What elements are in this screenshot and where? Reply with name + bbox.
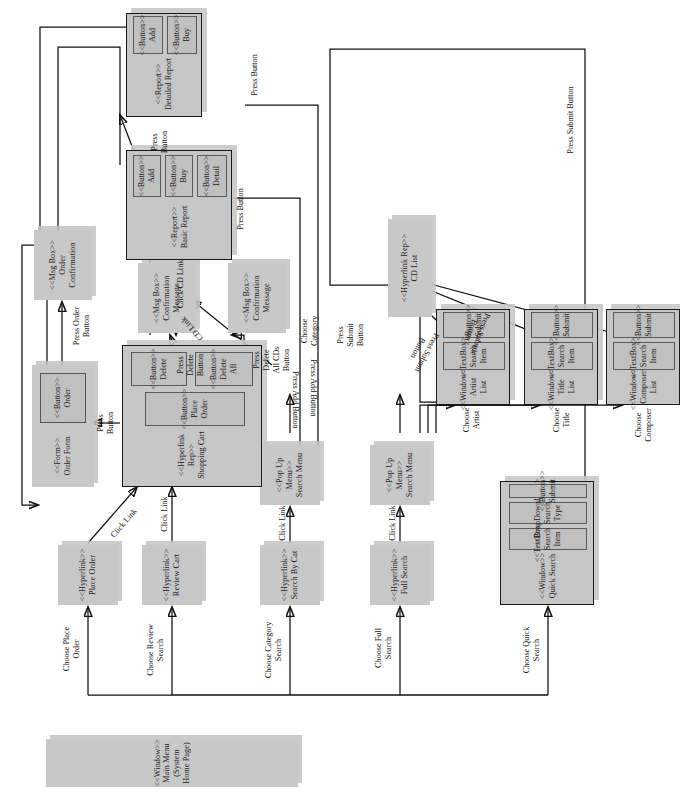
edge-label-press-button-right-2: Press Button — [250, 35, 260, 115]
node-hyperlink-place-order-stereotype: <<Hyperlink>> — [78, 549, 88, 602]
node-detailed-report-stereotype: <<Report>> — [154, 64, 164, 105]
node-msgbox-confirmation-message-2: <<Msg Box>> Confirmation Message — [228, 263, 286, 333]
textbox-title-search-item-label: Search Item — [557, 343, 576, 369]
button-order-label: Order — [63, 388, 73, 407]
node-basic-report-title: <<Report>> Basic Report — [135, 199, 225, 255]
edge-label-press-submit-button-1: Press Submit Button — [336, 313, 366, 357]
button-title-submit[interactable]: <<Button>> Submit — [531, 312, 593, 338]
edge-label-choose-title: Choose Title — [552, 399, 572, 441]
node-quick-search-label: Quick Search — [548, 554, 558, 598]
button-cart-delete-all-stereotype: <<Button>> — [209, 349, 219, 390]
edge-label-press-delete-all-cds-button: Press Delete All CDs Button — [252, 333, 291, 387]
edge-label-choose-artist: Choose Artist — [462, 397, 482, 443]
node-msgbox-order-confirmation-line2: Confirmation — [68, 242, 78, 287]
node-hyperlink-place-order[interactable]: <<Hyperlink>> Place Order — [58, 545, 118, 605]
node-popup-search-menu-full[interactable]: <<Pop Up Menu>> Search Menu — [370, 445, 430, 505]
node-cd-list[interactable]: <<Hyperlink Rep>> CD List — [388, 219, 432, 317]
node-popup-search-menu-full-stereotype: <<Pop Up Menu>> — [385, 445, 404, 505]
button-basic-add-stereotype: <<Button>> — [137, 156, 147, 197]
node-detailed-report-title: <<Report>> Detailed Report — [133, 56, 195, 112]
node-basic-report[interactable]: <<Report>> Basic Report <<Button>> Add <… — [126, 150, 232, 260]
node-main-menu[interactable]: <<Window>> Main Menu (System Home Page) — [46, 739, 298, 787]
edge-label-press-button-cart-to-form: Press Button — [96, 393, 116, 453]
node-popup-search-menu-category-label: Search Menu — [295, 453, 305, 498]
button-detailed-buy-stereotype: <<Button>> — [172, 15, 182, 56]
node-detailed-report[interactable]: <<Report>> Detailed Report <<Button>> Ad… — [126, 13, 202, 117]
edge-label-click-link-3: Click Link — [388, 503, 398, 543]
node-title-list[interactable]: <<Window>> Title List <<TextBox>> Search… — [524, 309, 598, 405]
button-detailed-add-label: Add — [148, 28, 158, 42]
button-basic-buy-stereotype: <<Button>> — [169, 156, 179, 197]
edge-label-press-submit-button-4: Press Submit Button — [566, 55, 576, 185]
node-order-form[interactable]: <<Form>> Order Form <<Button>> Order — [32, 365, 94, 487]
dropdown-quick-search-type[interactable]: <<DropDownList>> Search Type — [509, 502, 587, 524]
button-title-submit-stereotype: <<Button>> — [552, 305, 562, 346]
node-main-menu-stereotype: <<Window>> — [153, 739, 163, 786]
node-hyperlink-full-search[interactable]: <<Hyperlink>> Full Search — [370, 545, 430, 605]
node-shopping-cart-stereotype: <<Hyperlink Rep>> — [177, 430, 196, 480]
button-order-stereotype: <<Button>> — [53, 378, 63, 419]
node-main-menu-line1: Main Menu — [162, 743, 172, 782]
button-composer-submit-label: Submit — [644, 313, 654, 337]
node-quick-search[interactable]: <<Window>> Quick Search <<TextBox>> Sear… — [500, 481, 594, 605]
node-msgbox-order-confirmation-line1: Order — [58, 255, 68, 275]
node-cd-list-stereotype: <<Hyperlink Rep>> — [400, 234, 410, 303]
textbox-quick-search-item[interactable]: <<TextBox>> Search Item — [509, 528, 587, 550]
node-basic-report-stereotype: <<Report>> — [170, 207, 180, 248]
button-basic-buy-label: Buy — [179, 169, 189, 183]
node-cd-list-label: CD List — [410, 255, 420, 282]
node-hyperlink-search-by-cat-stereotype: <<Hyperlink>> — [280, 549, 290, 602]
node-hyperlink-review-cart-stereotype: <<Hyperlink>> — [162, 549, 172, 602]
button-quick-submit[interactable]: <<Button>> Submit — [509, 484, 587, 498]
node-popup-search-menu-full-label: Search Menu — [405, 453, 415, 498]
node-composer-list[interactable]: <<Window>> Composer List <<TextBox>> Sea… — [606, 309, 680, 405]
button-basic-detail[interactable]: <<Button>> Detail — [197, 155, 227, 197]
button-composer-submit-stereotype: <<Button>> — [634, 305, 644, 346]
node-hyperlink-full-search-stereotype: <<Hyperlink>> — [390, 549, 400, 602]
textbox-title-search-item[interactable]: <<TextBox>> Search Item — [531, 342, 593, 370]
edge-label-press-delete-button: Press Delete Button — [176, 339, 206, 391]
button-cart-place-order-stereotype: <<Button>> — [180, 389, 190, 430]
edge-label-choose-composer: Choose Composer — [634, 397, 654, 453]
node-hyperlink-review-cart-label: Review Cart — [172, 554, 182, 596]
edge-label-press-order-button: Press Order Button — [72, 291, 92, 361]
edge-label-click-link-2: Click Link — [278, 503, 288, 543]
node-order-form-stereotype: <<Form>> — [53, 438, 63, 474]
node-msgbox-confirmation-message-2-stereotype: <<Msg Box>> — [242, 273, 252, 323]
edge-label-click-link-1: Click Link — [160, 485, 170, 543]
node-hyperlink-search-by-cat[interactable]: <<Hyperlink>> Search By Cat — [260, 545, 320, 605]
node-hyperlink-search-by-cat-label: Search By Cat — [290, 551, 300, 600]
edge-label-choose-full-search: Choose Full Search — [374, 609, 394, 687]
edge-label-choose-category-search: Choose Category Search — [264, 605, 284, 695]
button-cart-delete-stereotype: <<Button>> — [149, 349, 159, 390]
edge-label-choose-place-order: Choose Place Order — [62, 609, 82, 689]
button-cart-place-order-label: Place Order — [190, 393, 209, 425]
edge-label-choose-quick-search: Choose Quick Search — [522, 607, 542, 693]
button-order[interactable]: <<Button>> Order — [40, 373, 86, 423]
edge-label-press-button-detail: Press Button — [150, 119, 170, 165]
edge-label-choose-category: Choose Category — [300, 303, 320, 359]
node-shopping-cart-label: Shopping Cart — [197, 431, 207, 479]
button-basic-detail-stereotype: <<Button>> — [202, 156, 212, 197]
node-title-list-title: <<Window>> Title List — [531, 374, 593, 400]
node-main-menu-line2: (System Home Page) — [172, 739, 191, 787]
button-cart-delete-all-label: Delete All — [219, 353, 238, 385]
node-detailed-report-label: Detailed Report — [164, 58, 174, 110]
textbox-composer-search-item-label: Search Item — [639, 343, 658, 369]
button-quick-submit-label: Submit — [548, 479, 558, 503]
button-cart-delete-label: Delete — [159, 358, 169, 379]
node-msgbox-confirmation-message-1-stereotype: <<Msg Box>> — [152, 273, 162, 323]
textbox-composer-search-item[interactable]: <<TextBox>> Search Item — [613, 342, 675, 370]
button-detailed-buy-label: Buy — [182, 28, 192, 42]
node-hyperlink-review-cart[interactable]: <<Hyperlink>> Review Cart — [142, 545, 202, 605]
button-composer-submit[interactable]: <<Button>> Submit — [613, 312, 675, 338]
node-title-list-label: Title List — [557, 374, 576, 400]
button-detailed-buy[interactable]: <<Button>> Buy — [167, 16, 197, 54]
edge-label-choose-review-search: Choose Review Search — [146, 607, 166, 693]
button-detailed-add[interactable]: <<Button>> Add — [133, 16, 163, 54]
node-msgbox-order-confirmation-stereotype: <<Msg Box>> — [48, 240, 58, 290]
button-cart-place-order[interactable]: <<Button>> Place Order — [145, 392, 245, 426]
button-basic-add-label: Add — [147, 169, 157, 183]
button-title-submit-label: Submit — [562, 313, 572, 337]
